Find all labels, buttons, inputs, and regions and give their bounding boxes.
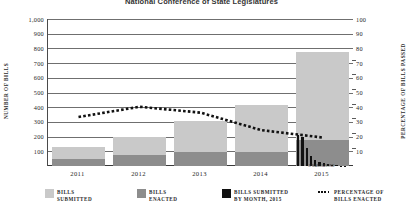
- legend-label-percentage-enacted: PERCENTAGE OF BILLS ENACTED: [334, 189, 384, 202]
- y-axis-right-title: PERCENTAGE OF BILLS PASSED: [400, 43, 406, 139]
- y-tick-left-8: 200: [4, 133, 44, 140]
- y-tick-right-8: 20: [356, 133, 396, 140]
- y-tick-right-9: 10: [356, 148, 396, 155]
- chart-legend: BILLS SUBMITTED BILLS ENACTED BILLS SUBM…: [45, 189, 403, 209]
- y-tick-left-3: 700: [4, 60, 44, 67]
- chart-title: National Conference of State Legislature…: [0, 0, 403, 6]
- x-axis-label-2013: 2013: [170, 170, 230, 177]
- dotted-line-swatch-icon: [318, 189, 331, 198]
- y-tick-left-1: 900: [4, 30, 44, 37]
- black-swatch-icon: [222, 189, 231, 198]
- legend-label-bills-by-month: BILLS SUBMITTED BY MONTH, 2015: [234, 189, 288, 202]
- y-tick-right-3: 70: [356, 60, 396, 67]
- legend-item-bills-submitted: BILLS SUBMITTED: [45, 189, 92, 202]
- y-tick-left-7: 300: [4, 118, 44, 125]
- legend-item-bills-enacted: BILLS ENACTED: [137, 189, 177, 202]
- legend-item-percentage-enacted: PERCENTAGE OF BILLS ENACTED: [318, 189, 384, 202]
- x-axis-label-2012: 2012: [109, 170, 169, 177]
- month-axis-labels: JFMAMJJASOND: [291, 164, 353, 168]
- y-axis-left-ticks: 1,000 900 800 700 600 500 400 300 200 10…: [0, 19, 44, 166]
- legend-label-bills-submitted: BILLS SUBMITTED: [57, 189, 92, 202]
- plot-area: [47, 19, 352, 166]
- y-tick-right-5: 50: [356, 89, 396, 96]
- y-tick-right-1: 90: [356, 30, 396, 37]
- x-axis-label-2014: 2014: [231, 170, 291, 177]
- y-axis-right-ticks: 100 90 80 70 60 50 40 30 20 10: [356, 19, 400, 166]
- light-gray-swatch-icon: [45, 189, 54, 198]
- y-tick-right-0: 100: [356, 16, 396, 23]
- legend-item-bills-by-month: BILLS SUBMITTED BY MONTH, 2015: [222, 189, 288, 202]
- y-tick-left-9: 100: [4, 148, 44, 155]
- y-tick-left-2: 800: [4, 45, 44, 52]
- y-tick-right-7: 30: [356, 118, 396, 125]
- y-tick-right-4: 60: [356, 74, 396, 81]
- x-axis-label-2015: 2015: [292, 170, 352, 177]
- x-axis-label-2011: 2011: [48, 170, 108, 177]
- y-tick-left-5: 500: [4, 89, 44, 96]
- percentage-line: [48, 19, 353, 166]
- legend-label-bills-enacted: BILLS ENACTED: [149, 189, 177, 202]
- y-tick-right-6: 40: [356, 104, 396, 111]
- y-tick-left-6: 400: [4, 104, 44, 111]
- dark-gray-swatch-icon: [137, 189, 146, 198]
- y-tick-left-4: 600: [4, 74, 44, 81]
- y-tick-left-0: 1,000: [4, 16, 44, 23]
- y-tick-right-2: 80: [356, 45, 396, 52]
